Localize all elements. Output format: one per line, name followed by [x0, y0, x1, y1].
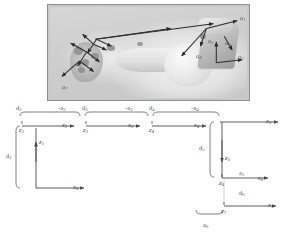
axis-label-z4: z4 — [149, 127, 154, 134]
dimension-label-d3: d3 — [82, 105, 88, 112]
axis-label-x2: x2 — [62, 122, 67, 129]
axis-label-x4: x4 — [194, 122, 199, 129]
axis-label-x7: x7 — [268, 202, 273, 209]
photo-vector-label-a6: a6 — [76, 61, 82, 68]
dimension-label-a6: a6 — [203, 222, 208, 229]
dimension-label-d6: d6 — [239, 190, 245, 197]
axis-label-z6: z6 — [219, 180, 224, 187]
dimension-label-d5: d5 — [199, 145, 205, 152]
kinematic-chain-figure: a1 a2 a3 a4 a5 a6 a7 — [0, 0, 296, 250]
photo-vector-label-a2: a2 — [238, 54, 244, 61]
specimen-photograph — [47, 4, 250, 101]
dimension-label-d4: d4 — [149, 105, 155, 112]
dimension-label-neg-a3: -a3 — [125, 105, 133, 112]
axis-label-x5-top: x5 — [266, 118, 271, 125]
axis-label-x6: x6 — [258, 175, 263, 182]
dimension-label-neg-a2: -a2 — [58, 105, 66, 112]
photo-vector-label-a4: a4 — [196, 53, 202, 60]
dimension-label-neg-a4: -a4 — [191, 105, 199, 112]
dh-parameter-diagram — [0, 100, 296, 250]
photo-vector-label-a5: a5 — [208, 38, 214, 45]
axis-label-z3: z3 — [83, 127, 88, 134]
photo-vector-label-a7: a7 — [62, 84, 68, 91]
photo-vector-label-a3: a3 — [225, 40, 231, 47]
photo-background — [50, 7, 247, 98]
axis-label-z5: z5 — [225, 155, 230, 162]
dh-diagram-lines — [0, 100, 296, 250]
axis-label-z2: z2 — [19, 127, 24, 134]
axis-label-x0: x0 — [73, 184, 78, 191]
dimension-label-d2: d2 — [16, 105, 22, 112]
axis-label-z1: z1 — [39, 139, 44, 146]
axis-label-z7: z7 — [221, 208, 226, 215]
axis-label-x3: x3 — [128, 122, 133, 129]
photo-vector-label-a1: a1 — [240, 15, 246, 22]
photo-vector-overlay — [50, 7, 247, 98]
dimension-label-a5: a5 — [239, 170, 244, 177]
dimension-label-d1: d1 — [6, 153, 12, 160]
